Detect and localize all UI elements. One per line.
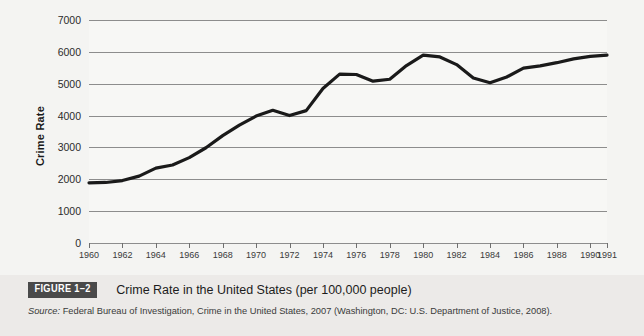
x-axis-line [89, 243, 607, 244]
figure-title: Crime Rate in the United States (per 100… [116, 283, 411, 297]
x-axis-tick [156, 243, 157, 248]
x-axis-tick [590, 243, 591, 248]
y-tick-label: 3000 [37, 141, 81, 153]
y-tick-label: 0 [37, 237, 81, 249]
x-tick-label: 1962 [112, 250, 132, 260]
x-tick-label: 1970 [246, 250, 266, 260]
x-tick-label: 1972 [280, 250, 300, 260]
x-tick-label: 1980 [413, 250, 433, 260]
x-axis-tick [89, 243, 90, 248]
y-tick-label: 4000 [37, 110, 81, 122]
x-axis-tick [223, 243, 224, 248]
x-tick-label: 1960 [79, 250, 99, 260]
x-tick-label: 1986 [513, 250, 533, 260]
y-tick-label: 7000 [37, 14, 81, 26]
x-axis-tick [457, 243, 458, 248]
source-text: Federal Bureau of Investigation, Crime i… [60, 306, 552, 316]
x-axis-tick [122, 243, 123, 248]
x-tick-label: 1982 [447, 250, 467, 260]
x-tick-label: 1988 [547, 250, 567, 260]
x-tick-label: 1991 [597, 250, 617, 260]
x-axis-tick [490, 243, 491, 248]
y-tick-label: 6000 [37, 46, 81, 58]
x-axis-tick [189, 243, 190, 248]
y-tick-label: 2000 [37, 173, 81, 185]
x-tick-label: 1968 [213, 250, 233, 260]
x-tick-label: 1974 [313, 250, 333, 260]
x-tick-label: 1966 [179, 250, 199, 260]
source-label: Source: [28, 306, 60, 316]
x-axis-tick [423, 243, 424, 248]
x-axis-tick [323, 243, 324, 248]
crime-rate-line-series [89, 20, 607, 243]
x-axis-tick [356, 243, 357, 248]
y-axis-label: Crime Rate [34, 86, 48, 186]
x-axis-tick [390, 243, 391, 248]
x-axis-tick [290, 243, 291, 248]
x-axis-tick [557, 243, 558, 248]
y-tick-label: 1000 [37, 205, 81, 217]
chart-area: Crime Rate 7000 6000 5000 4000 3000 2000… [0, 0, 644, 272]
x-axis-tick [256, 243, 257, 248]
x-axis-tick [607, 243, 608, 248]
caption-row: FIGURE 1–2 Crime Rate in the United Stat… [28, 282, 412, 298]
x-tick-label: 1984 [480, 250, 500, 260]
figure-number-badge: FIGURE 1–2 [28, 282, 97, 298]
figure-root: Crime Rate 7000 6000 5000 4000 3000 2000… [0, 0, 644, 336]
x-axis: 1960196219641966196819701972197419761978… [89, 243, 607, 265]
y-tick-label: 5000 [37, 78, 81, 90]
x-tick-label: 1964 [146, 250, 166, 260]
x-axis-tick [523, 243, 524, 248]
x-tick-label: 1978 [380, 250, 400, 260]
plot-area [89, 20, 607, 243]
x-tick-label: 1976 [346, 250, 366, 260]
figure-source: Source: Federal Bureau of Investigation,… [28, 306, 552, 316]
caption-block: FIGURE 1–2 Crime Rate in the United Stat… [0, 275, 644, 336]
